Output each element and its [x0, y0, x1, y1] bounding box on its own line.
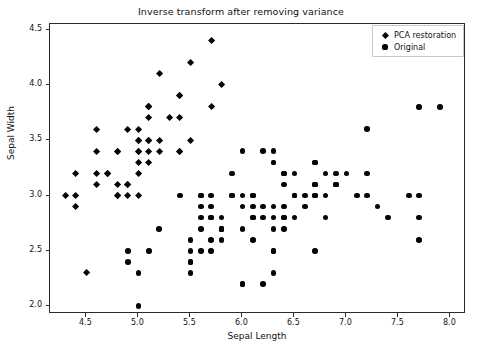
data-point	[406, 193, 412, 199]
data-point	[188, 248, 194, 254]
data-point	[240, 204, 246, 210]
data-point	[271, 226, 277, 232]
data-point	[135, 148, 142, 155]
circle-marker-icon	[382, 44, 387, 49]
data-point	[302, 204, 308, 210]
data-point	[208, 215, 214, 221]
data-point	[114, 148, 121, 155]
y-axis-tick-label: 3.5	[12, 134, 42, 143]
x-axis-label: Sepal Length	[49, 331, 465, 341]
data-point	[271, 270, 277, 276]
x-axis-tick-label: 7.5	[379, 318, 415, 327]
x-axis-tick-label: 5.5	[171, 318, 207, 327]
data-point	[135, 192, 142, 199]
data-point	[136, 270, 142, 276]
data-point	[312, 182, 318, 188]
data-point	[124, 125, 131, 132]
data-point	[176, 114, 183, 121]
data-point	[177, 193, 183, 199]
x-axis-tick-label: 8.0	[431, 318, 467, 327]
x-axis-tick	[397, 313, 398, 317]
data-point	[198, 193, 204, 199]
data-point	[208, 237, 214, 243]
y-axis-tick-label: 4.0	[12, 79, 42, 88]
data-point	[364, 171, 370, 177]
data-point	[385, 215, 391, 221]
data-point	[135, 170, 142, 177]
data-point	[240, 193, 246, 199]
data-point	[187, 137, 194, 144]
data-point	[198, 204, 204, 210]
data-point	[187, 59, 194, 66]
y-axis-tick-label: 2.5	[12, 245, 42, 254]
data-point	[208, 193, 214, 199]
data-point	[219, 226, 225, 232]
data-point	[312, 160, 318, 166]
data-point	[156, 148, 163, 155]
data-point	[124, 181, 131, 188]
data-point	[323, 193, 329, 199]
x-axis-tick-label: 6.0	[223, 318, 259, 327]
x-axis-tick-label: 7.0	[327, 318, 363, 327]
data-point	[188, 237, 194, 243]
data-point	[271, 160, 277, 166]
data-point	[260, 215, 266, 221]
data-point	[93, 181, 100, 188]
data-point	[93, 148, 100, 155]
data-point	[208, 37, 215, 44]
data-point	[135, 125, 142, 132]
data-point	[323, 215, 329, 221]
data-point	[208, 204, 214, 210]
data-point	[198, 248, 204, 254]
data-point	[145, 148, 152, 155]
data-point	[375, 204, 381, 210]
data-point	[271, 215, 277, 221]
data-point	[229, 171, 235, 177]
data-point	[93, 125, 100, 132]
data-point	[312, 248, 318, 254]
data-point	[136, 303, 142, 309]
x-axis-tick	[137, 313, 138, 317]
legend-item: PCA restoration	[376, 29, 459, 41]
data-point	[156, 137, 163, 144]
data-point	[219, 237, 225, 243]
data-point	[250, 237, 256, 243]
data-point	[125, 259, 131, 265]
data-point	[145, 114, 152, 121]
data-point	[333, 182, 339, 188]
data-point	[312, 193, 318, 199]
data-point	[208, 248, 214, 254]
data-point	[218, 81, 225, 88]
chart-title: Inverse transform after removing varianc…	[0, 6, 482, 17]
data-point	[104, 170, 111, 177]
data-point	[188, 270, 194, 276]
data-point	[416, 237, 422, 243]
data-point	[114, 181, 121, 188]
data-point	[166, 114, 173, 121]
data-point	[437, 104, 443, 110]
matplotlib-figure: Inverse transform after removing varianc…	[0, 0, 482, 358]
data-point	[188, 259, 194, 265]
data-point	[145, 103, 152, 110]
data-point	[260, 281, 266, 287]
data-point	[176, 92, 183, 99]
data-point	[416, 215, 422, 221]
data-point	[281, 171, 287, 177]
data-point	[145, 137, 152, 144]
data-point	[156, 70, 163, 77]
data-point	[302, 193, 308, 199]
x-axis-tick	[293, 313, 294, 317]
data-point	[281, 182, 287, 188]
data-point	[281, 204, 287, 210]
data-point	[198, 215, 204, 221]
data-point	[135, 159, 142, 166]
y-axis-tick-label: 3.0	[12, 190, 42, 199]
y-axis-label: Sepal Width	[6, 93, 16, 173]
legend-marker	[376, 33, 394, 38]
data-point	[271, 204, 277, 210]
data-point	[271, 148, 277, 154]
data-point	[208, 103, 215, 110]
data-point	[135, 137, 142, 144]
data-point	[240, 148, 246, 154]
legend-item: Original	[376, 41, 459, 53]
